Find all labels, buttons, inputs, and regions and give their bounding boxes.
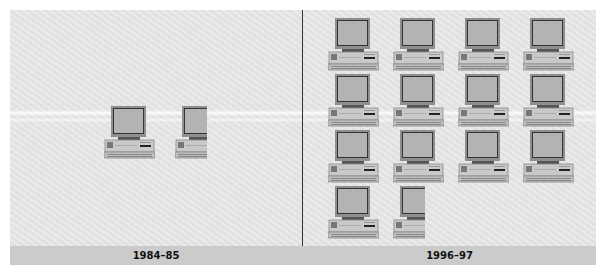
category-label-1984-85: 1984–85 xyxy=(10,246,302,265)
computer-icon xyxy=(458,130,509,183)
computer-icon xyxy=(523,130,574,183)
computer-icon xyxy=(393,74,444,127)
computer-icon xyxy=(523,74,574,127)
computer-icon xyxy=(328,186,379,239)
computer-icon xyxy=(393,18,444,71)
computer-icon xyxy=(458,18,509,71)
computer-icon xyxy=(523,18,574,71)
category-label-bar: 1984–85 1996–97 xyxy=(10,246,596,265)
pictograph-chart: 1984–85 1996–97 xyxy=(10,10,596,265)
computer-icon xyxy=(175,106,207,159)
category-label-1996-97: 1996–97 xyxy=(303,246,596,265)
panel-divider xyxy=(302,10,303,265)
computer-icon xyxy=(393,130,444,183)
computer-icon xyxy=(458,74,509,127)
computer-icon xyxy=(328,18,379,71)
computer-icon xyxy=(328,130,379,183)
computer-icon xyxy=(393,186,425,239)
computer-icon xyxy=(328,74,379,127)
computer-icon xyxy=(104,106,155,159)
